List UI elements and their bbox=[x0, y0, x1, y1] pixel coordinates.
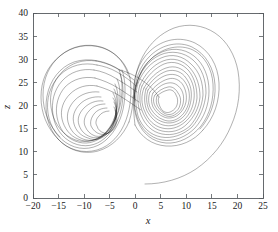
y-tick-label: 0 bbox=[23, 193, 28, 203]
y-tick-label: 5 bbox=[23, 170, 28, 180]
x-tick-label: 20 bbox=[233, 201, 243, 211]
y-tick-label: 20 bbox=[19, 101, 29, 111]
lorenz-attractor-figure: −20 −15 −10 −5 0 5 10 15 20 25 0 5 10 15… bbox=[0, 0, 278, 232]
chart-canvas: −20 −15 −10 −5 0 5 10 15 20 25 0 5 10 15… bbox=[0, 0, 278, 232]
y-tick-label: 15 bbox=[19, 124, 29, 134]
y-tick-label: 25 bbox=[19, 78, 29, 88]
y-tick-label: 35 bbox=[19, 32, 29, 42]
y-axis-label: z bbox=[1, 105, 12, 110]
x-tick-label: 15 bbox=[207, 201, 217, 211]
x-tick-label: 10 bbox=[182, 201, 192, 211]
x-tick-label: −15 bbox=[51, 201, 66, 211]
y-tick-labels: 0 5 10 15 20 25 30 35 40 bbox=[19, 8, 29, 203]
x-tick-label: 0 bbox=[133, 201, 138, 211]
x-tick-label: −5 bbox=[105, 201, 115, 211]
x-tick-label: −10 bbox=[77, 201, 92, 211]
y-tick-label: 10 bbox=[19, 147, 29, 157]
plot-area-background bbox=[33, 13, 263, 198]
x-tick-label: 5 bbox=[158, 201, 163, 211]
x-tick-label: 25 bbox=[258, 201, 268, 211]
y-tick-label: 40 bbox=[19, 8, 29, 18]
x-axis-label: x bbox=[145, 215, 151, 226]
y-tick-label: 30 bbox=[19, 55, 29, 65]
x-tick-labels: −20 −15 −10 −5 0 5 10 15 20 25 bbox=[26, 201, 268, 211]
